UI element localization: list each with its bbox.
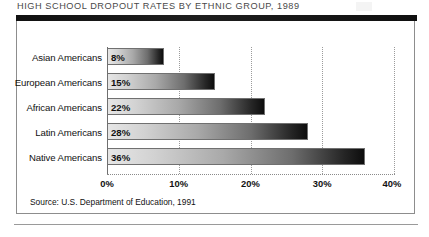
bar-value-label: 36% xyxy=(111,151,130,162)
bar-category-label: Latin Americans xyxy=(35,126,102,137)
bar-value-label: 15% xyxy=(111,76,130,87)
bar-value-label: 22% xyxy=(111,101,130,112)
bar-category-label: Native Americans xyxy=(29,151,102,162)
x-tick-label-20: 20% xyxy=(241,178,260,189)
scan-artifact xyxy=(356,2,372,11)
x-tick-label-0: 0% xyxy=(100,178,114,189)
gridline-40 xyxy=(394,47,395,174)
bar-value-label: 28% xyxy=(111,126,130,137)
bar-category-label: African Americans xyxy=(26,101,102,112)
source-note: Source: U.S. Department of Education, 19… xyxy=(30,197,196,207)
x-tick-label-10: 10% xyxy=(169,178,188,189)
x-tick-label-30: 30% xyxy=(313,178,332,189)
bar-value-label: 8% xyxy=(111,51,125,62)
bar-category-label: European Americans xyxy=(15,76,102,87)
chart-title: HIGH SCHOOL DROPOUT RATES BY ETHNIC GROU… xyxy=(17,1,300,11)
bottom-rule xyxy=(14,224,418,225)
x-tick-label-40: 40% xyxy=(383,178,402,189)
bar xyxy=(107,123,308,140)
bar-category-label: Asian Americans xyxy=(32,51,102,62)
x-axis-line xyxy=(107,174,395,175)
plot-area: Asian Americans 8% European Americans 15… xyxy=(107,47,394,174)
chart-figure: HIGH SCHOOL DROPOUT RATES BY ETHNIC GROU… xyxy=(0,0,429,237)
bar xyxy=(107,148,365,165)
bar xyxy=(107,98,265,115)
